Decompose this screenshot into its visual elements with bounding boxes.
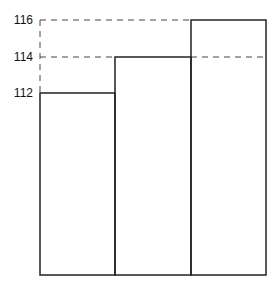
y-tick-116: 116	[14, 13, 33, 27]
y-tick-112: 112	[14, 86, 33, 100]
bar-chart: 116 114 112	[0, 0, 279, 287]
bar-3	[191, 20, 266, 275]
y-tick-114: 114	[14, 50, 33, 64]
bar-2	[115, 57, 191, 275]
bar-1	[40, 93, 115, 275]
